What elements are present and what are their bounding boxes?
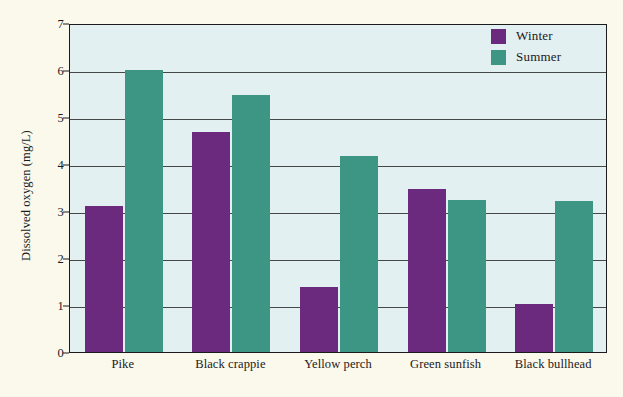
x-tick-label: Pike <box>111 357 134 372</box>
legend-swatch-winter-icon <box>491 29 506 44</box>
plot-area <box>69 24 607 353</box>
bar-summer-black-bullhead <box>555 201 593 352</box>
x-tick-label: Black crappie <box>195 357 265 372</box>
y-tick-mark <box>63 353 69 354</box>
bar-summer-pike <box>125 70 163 352</box>
x-tick-label: Black bullhead <box>515 357 592 372</box>
y-tick-mark <box>63 306 69 307</box>
y-tick-mark <box>63 165 69 166</box>
bars-layer <box>70 25 606 352</box>
y-tick-mark <box>63 259 69 260</box>
bar-winter-black-crappie <box>192 132 230 352</box>
y-axis-title: Dissolved oxygen (mg/L) <box>19 86 34 306</box>
y-tick-mark <box>63 118 69 119</box>
bar-chart-figure: 01234567 Dissolved oxygen (mg/L) PikeBla… <box>0 0 623 397</box>
bar-winter-yellow-perch <box>300 287 338 352</box>
bar-winter-black-bullhead <box>515 304 553 352</box>
bar-summer-yellow-perch <box>340 156 378 352</box>
legend-label-summer: Summer <box>516 49 561 65</box>
legend-swatch-summer-icon <box>491 50 506 65</box>
legend-item-summer: Summer <box>491 49 561 65</box>
x-axis: PikeBlack crappieYellow perchGreen sunfi… <box>69 357 607 377</box>
y-tick-mark <box>63 71 69 72</box>
y-tick-mark <box>63 212 69 213</box>
bar-summer-black-crappie <box>232 95 270 352</box>
x-tick-label: Green sunfish <box>410 357 481 372</box>
legend-item-winter: Winter <box>491 28 561 44</box>
legend-label-winter: Winter <box>516 28 553 44</box>
y-tick-mark <box>63 24 69 25</box>
x-tick-label: Yellow perch <box>304 357 372 372</box>
y-axis: 01234567 <box>40 24 64 353</box>
legend: Winter Summer <box>491 28 561 65</box>
bar-winter-green-sunfish <box>408 189 446 352</box>
bar-summer-green-sunfish <box>448 200 486 352</box>
bar-winter-pike <box>85 206 123 352</box>
